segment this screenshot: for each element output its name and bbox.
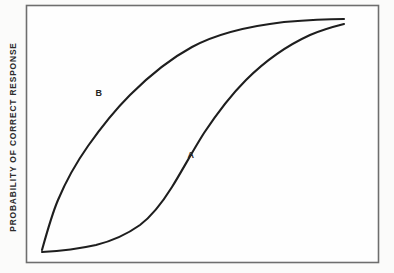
curve-label-b: B: [96, 88, 103, 98]
figure-container: PROBABILITY OF CORRECT RESPONSE B A: [0, 0, 394, 273]
curve-label-a: A: [188, 150, 195, 160]
plot-area: B A: [0, 0, 394, 273]
